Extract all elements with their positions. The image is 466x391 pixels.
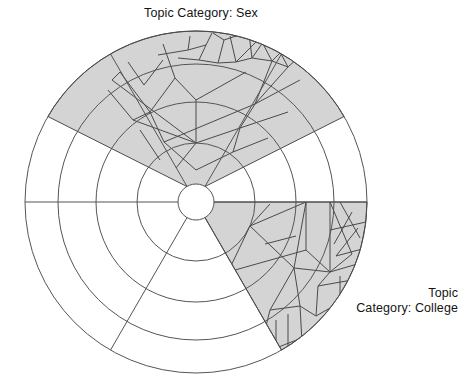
label-topic-category-sex: Topic Category: Sex <box>0 6 402 21</box>
ring-hub <box>178 184 214 220</box>
label-college-line2: Category: College <box>356 301 458 316</box>
figure-canvas: Topic Category: Sex Topic Category: Coll… <box>0 0 466 391</box>
label-college-line1: Topic <box>356 286 458 301</box>
sector-college-shaded-area <box>205 202 367 350</box>
label-sex-text: Topic Category: Sex <box>144 6 258 20</box>
polar-partition-chart <box>0 0 466 391</box>
label-topic-category-college: Topic Category: College <box>356 286 458 316</box>
